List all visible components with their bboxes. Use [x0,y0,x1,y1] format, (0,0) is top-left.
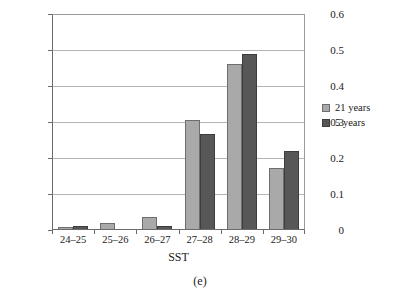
y-tick-mark [48,158,52,159]
x-tick-label: 25–26 [94,234,136,246]
x-tick-label: 26–27 [136,234,178,246]
y-tick-label: 0.1 [304,189,344,200]
y-tick-label: 0.6 [304,9,344,20]
legend-label: 21 years [335,102,370,113]
plot-area [52,14,305,230]
y-tick-label: 0 [304,225,344,236]
legend-label: 5 years [335,117,365,128]
x-axis-title: SST [52,250,305,265]
x-tick-label: 29–30 [263,234,305,246]
x-tick-label: 24–25 [52,234,94,246]
legend-entry: 21 years [322,100,370,115]
chart-figure: 00.10.20.30.40.50.6 24–2525–2626–2727–28… [0,0,400,297]
y-tick-mark [48,194,52,195]
legend-swatch [322,119,330,127]
y-tick-label: 0.4 [304,81,344,92]
plot-frame [52,14,305,230]
chart-legend: 21 years5 years [322,100,370,130]
y-tick-mark [48,50,52,51]
y-tick-label: 0.5 [304,45,344,56]
x-tick-label: 27–28 [179,234,221,246]
x-axis-labels: 24–2525–2626–2727–2828–2929–30 [52,234,305,246]
x-tick-label: 28–29 [221,234,263,246]
y-tick-mark [48,86,52,87]
figure-caption: (e) [0,274,400,289]
y-tick-label: 0.2 [304,153,344,164]
legend-swatch [322,104,330,112]
y-tick-mark [48,122,52,123]
y-tick-mark [48,14,52,15]
legend-entry: 5 years [322,115,370,130]
